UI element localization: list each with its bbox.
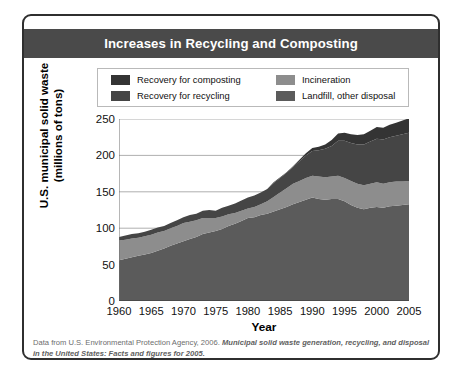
legend-swatch-incineration: [276, 75, 295, 85]
legend-item-recycling: Recovery for recycling: [111, 90, 230, 101]
x-axis-title: Year: [119, 320, 409, 334]
y-tick-label: 50: [102, 259, 115, 271]
legend-swatch-recycling: [111, 91, 130, 101]
y-axis-title: U.S. municipal solid waste (millions of …: [37, 46, 66, 224]
stacked-area-chart: [119, 119, 409, 301]
figure-title-bar: Increases in Recycling and Composting: [24, 29, 438, 58]
plot-area: [119, 119, 409, 301]
x-tick-label: 1960: [107, 305, 132, 317]
x-tick-label: 1980: [235, 305, 260, 317]
y-tick-label: 100: [96, 222, 115, 234]
legend: Recovery for composting Recovery for rec…: [97, 68, 409, 107]
x-tick-label: 2000: [364, 305, 389, 317]
legend-label-composting: Recovery for composting: [137, 74, 241, 85]
figure-title: Increases in Recycling and Composting: [104, 36, 358, 51]
y-axis-title-line2: (millions of tons): [51, 46, 65, 224]
y-tick-labels: 050100150200250: [82, 119, 115, 301]
y-tick-label: 150: [96, 186, 115, 198]
x-tick-label: 1985: [268, 305, 293, 317]
x-tick-label: 2005: [397, 305, 422, 317]
legend-swatch-landfill: [276, 91, 295, 101]
x-tick-label: 1995: [332, 305, 357, 317]
legend-swatch-composting: [111, 75, 130, 85]
y-axis-title-line1: U.S. municipal solid waste: [37, 46, 51, 224]
legend-item-landfill: Landfill, other disposal: [276, 90, 395, 101]
x-tick-label: 1975: [203, 305, 228, 317]
x-tick-label: 1990: [300, 305, 325, 317]
area-layers: [119, 119, 409, 301]
legend-label-incineration: Incineration: [302, 74, 350, 85]
figure-panel: Increases in Recycling and Composting U.…: [22, 14, 440, 360]
caption-plain: Data from U.S. Environmental Protection …: [33, 338, 222, 347]
y-tick-label: 200: [96, 149, 115, 161]
legend-item-incineration: Incineration: [276, 74, 350, 85]
y-tick-label: 250: [96, 113, 115, 125]
legend-item-composting: Recovery for composting: [111, 74, 241, 85]
x-tick-labels: 1960196519701975198019851990199520002005: [119, 305, 409, 321]
x-tick-label: 1970: [171, 305, 196, 317]
x-tick-label: 1965: [139, 305, 164, 317]
legend-label-landfill: Landfill, other disposal: [302, 90, 395, 101]
source-caption: Data from U.S. Environmental Protection …: [33, 338, 433, 360]
legend-label-recycling: Recovery for recycling: [137, 90, 230, 101]
